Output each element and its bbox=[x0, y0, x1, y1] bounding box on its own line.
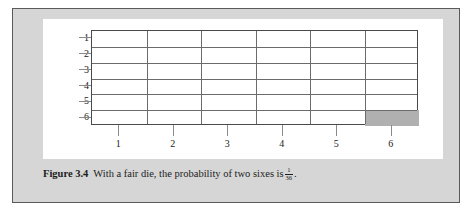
x-axis: 1 2 3 4 5 6 bbox=[91, 125, 418, 155]
x-axis-label-6: 6 bbox=[381, 138, 401, 149]
figure-caption-label: Figure 3.4 bbox=[43, 168, 88, 179]
x-tick-4 bbox=[282, 125, 283, 136]
grid-vline-5 bbox=[365, 31, 366, 124]
caption-period: . bbox=[294, 168, 297, 179]
dice-outcome-grid-chart: 1 2 3 4 5 6 bbox=[43, 19, 443, 159]
grid-hline-5 bbox=[92, 110, 417, 111]
grid-vline-4 bbox=[310, 31, 311, 124]
x-axis-label-4: 4 bbox=[272, 138, 292, 149]
grid-hline-3 bbox=[92, 79, 417, 80]
fraction-denominator: 36 bbox=[285, 175, 294, 182]
x-tick-3 bbox=[227, 125, 228, 136]
figure-caption: Figure 3.4With a fair die, the probabili… bbox=[43, 167, 443, 182]
x-tick-2 bbox=[173, 125, 174, 136]
x-tick-5 bbox=[336, 125, 337, 136]
caption-fraction: 136 bbox=[285, 167, 294, 182]
grid-hline-2 bbox=[92, 63, 417, 64]
grid-vline-3 bbox=[256, 31, 257, 124]
x-axis-label-1: 1 bbox=[108, 138, 128, 149]
outcome-grid bbox=[91, 30, 418, 125]
x-axis-label-5: 5 bbox=[326, 138, 346, 149]
figure-caption-text: With a fair die, the probability of two … bbox=[93, 168, 283, 179]
x-tick-1 bbox=[118, 125, 119, 136]
grid-hline-4 bbox=[92, 94, 417, 95]
x-axis-label-3: 3 bbox=[217, 138, 237, 149]
shaded-cell-six-six bbox=[365, 110, 420, 126]
figure-frame: 1 2 3 4 5 6 bbox=[12, 8, 460, 203]
x-axis-label-2: 2 bbox=[163, 138, 183, 149]
grid-hline-1 bbox=[92, 47, 417, 48]
grid-vline-1 bbox=[147, 31, 148, 124]
grid-vline-2 bbox=[201, 31, 202, 124]
plot-panel: 1 2 3 4 5 6 bbox=[43, 19, 443, 159]
x-tick-6 bbox=[391, 125, 392, 136]
